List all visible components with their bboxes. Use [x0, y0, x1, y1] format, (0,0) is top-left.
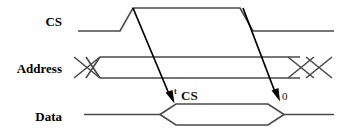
annotation-zero: 0 — [282, 90, 288, 102]
annotation-t-cs-subscript: t — [174, 87, 177, 96]
output-disable-arrow — [243, 8, 280, 102]
t-cs-arrow-line — [133, 8, 169, 94]
annotation-t-cs-main: CS — [181, 88, 198, 103]
signal-label-cs: CS — [45, 14, 62, 29]
output-disable-arrow-line — [243, 8, 275, 92]
timing-diagram-root: CS Address Data — [0, 0, 339, 136]
waveform-data — [84, 104, 334, 125]
data-valid-top — [160, 104, 284, 115]
output-disable-arrow-head — [272, 88, 281, 102]
t-cs-arrow — [133, 8, 175, 104]
cs-waveform-path — [78, 8, 334, 31]
waveform-cs — [78, 8, 334, 31]
waveform-address — [74, 57, 332, 78]
signal-label-data: Data — [35, 109, 62, 124]
data-valid-bottom — [160, 115, 284, 126]
timing-diagram-canvas: CS Address Data — [0, 0, 339, 136]
annotation-t-cs: t CS — [174, 87, 198, 103]
signal-label-address: Address — [17, 61, 62, 76]
